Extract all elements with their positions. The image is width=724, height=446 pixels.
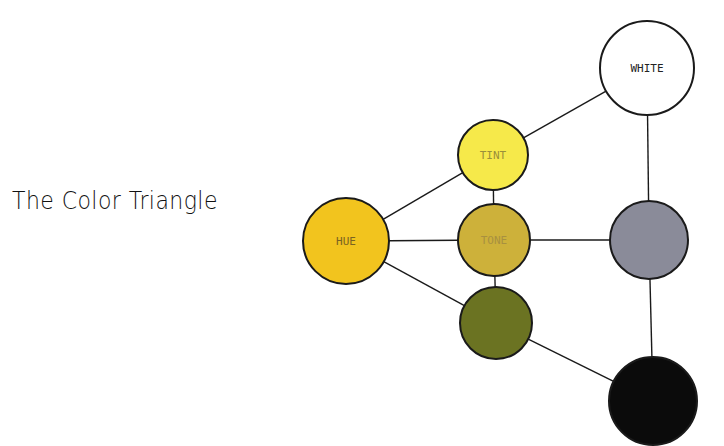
edge-white-gray — [648, 115, 649, 201]
edge-gray-black — [650, 279, 652, 357]
node-label-tone: TONE — [481, 234, 508, 247]
node-label-hue: HUE — [336, 235, 356, 248]
edge-tint-white — [523, 91, 606, 138]
node-circle-black — [609, 357, 697, 445]
node-tone: TONE — [458, 204, 530, 276]
node-black — [609, 357, 697, 445]
node-label-white: WHITE — [630, 62, 663, 75]
node-circle-shade — [460, 287, 532, 359]
color-triangle-diagram: WHITETINTHUETONE — [0, 0, 724, 446]
nodes-group: WHITETINTHUETONE — [303, 21, 697, 445]
edge-hue-tint — [383, 173, 463, 220]
node-hue: HUE — [303, 198, 389, 284]
node-tint: TINT — [458, 120, 528, 190]
edge-shade-black — [528, 339, 613, 381]
node-gray — [610, 201, 688, 279]
node-label-tint: TINT — [480, 149, 507, 162]
node-circle-gray — [610, 201, 688, 279]
node-white: WHITE — [600, 21, 694, 115]
node-shade — [460, 287, 532, 359]
edge-hue-shade — [384, 262, 465, 306]
